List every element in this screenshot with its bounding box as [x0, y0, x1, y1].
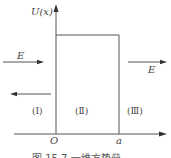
- potential-barrier-diagram: [0, 0, 171, 158]
- incident-energy-label: E: [17, 50, 24, 61]
- region-2-label: (Ⅱ): [75, 106, 88, 116]
- y-axis-label: U(x): [31, 6, 53, 17]
- y-axis-arrow-icon: [54, 4, 59, 12]
- transmitted-energy-label: E: [148, 64, 155, 75]
- figure-caption: 图 15.7 一维方势垒: [32, 150, 121, 158]
- origin-label: O: [50, 135, 58, 146]
- barrier-end-label: a: [116, 135, 122, 146]
- transmitted-arrow-head-icon: [160, 60, 167, 64]
- incident-arrow-head-icon: [37, 60, 44, 64]
- region-3-label: (Ⅲ): [127, 106, 143, 116]
- region-1-label: (Ⅰ): [32, 106, 43, 116]
- reflected-arrow-head-icon: [10, 92, 17, 96]
- barrier-outline: [56, 35, 119, 134]
- x-axis-arrow-icon: [159, 132, 167, 137]
